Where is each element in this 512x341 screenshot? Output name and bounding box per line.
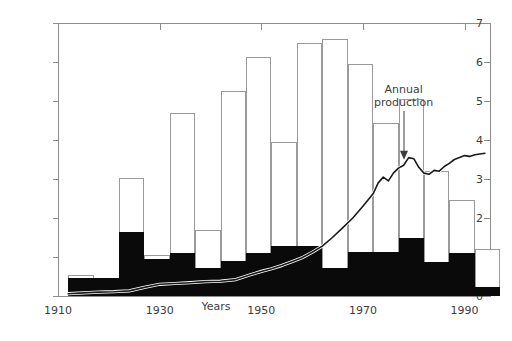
bar-filled-segment [246, 253, 271, 296]
y-tick-label: 4 [476, 135, 483, 146]
y-tick [53, 23, 58, 24]
bar-filled-segment [221, 261, 246, 296]
y-tick-label: 6 [476, 57, 483, 68]
right-tick [484, 179, 490, 180]
plot-area: 01234567 19101930195019701990 Annual pro… [58, 23, 490, 296]
y-tick-label: 3 [476, 174, 483, 185]
bar-filled-segment [170, 253, 195, 296]
bar-filled-segment [144, 259, 169, 296]
y-tick [53, 101, 58, 102]
y-tick [53, 140, 58, 141]
y-tick [53, 296, 58, 297]
x-tick-label: 1990 [451, 305, 479, 316]
right-tick [484, 62, 490, 63]
right-tick [484, 140, 490, 141]
top-tick [261, 24, 262, 30]
annual-production-annotation: Annual production [374, 83, 433, 109]
y-tick [53, 218, 58, 219]
x-tick-label: 1950 [247, 305, 275, 316]
top-tick [160, 24, 161, 30]
y-axis-line [58, 23, 59, 297]
y-tick [53, 257, 58, 258]
y-tick [53, 62, 58, 63]
annotation-arrow-icon [398, 111, 410, 160]
y-tick [53, 179, 58, 180]
x-axis-line [58, 296, 491, 297]
x-tick-label: 1970 [349, 305, 377, 316]
bar-filled-segment [271, 246, 296, 296]
x-tick-label: 1910 [44, 305, 72, 316]
bar-filled-segment [94, 278, 119, 296]
bar-filled-segment [373, 252, 398, 296]
y-tick-label: 7 [476, 18, 483, 29]
top-tick [465, 24, 466, 30]
bar-filled-segment [348, 252, 373, 296]
bar-total [322, 39, 347, 296]
x-axis-title: Years [201, 300, 230, 313]
bar-filled-segment [399, 238, 424, 297]
x-tick-label: 1930 [146, 305, 174, 316]
bar-filled-segment [424, 262, 449, 296]
chart-figure: Crude oil, billions of cubic meters/yr Y… [0, 0, 512, 341]
top-tick [363, 24, 364, 30]
bar-filled-segment [449, 253, 474, 296]
y-tick-label: 2 [476, 213, 483, 224]
bar-filled-segment [68, 278, 93, 296]
bar-filled-segment [119, 232, 144, 296]
right-tick [484, 218, 490, 219]
bar-filled-segment [475, 287, 500, 296]
bar-filled-segment [195, 268, 220, 296]
bar-filled-segment [297, 246, 322, 296]
y-tick-label: 5 [476, 96, 483, 107]
right-tick [484, 101, 490, 102]
top-axis-line [58, 23, 491, 24]
bar-filled-segment [322, 268, 347, 296]
